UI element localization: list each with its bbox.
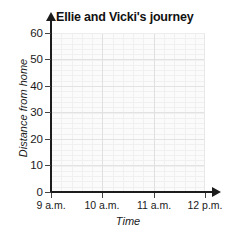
y-tick-label-60: 60	[3, 27, 43, 39]
grid-minor-lines	[51, 33, 205, 192]
x-tick-label-9am: 9 a.m.	[23, 199, 79, 211]
plot-area	[51, 33, 205, 192]
y-axis-tick	[45, 165, 51, 166]
x-tick-label-10am: 10 a.m.	[74, 199, 130, 211]
y-axis-line	[50, 20, 52, 193]
x-axis-line	[51, 191, 214, 193]
x-axis-tick	[205, 193, 206, 198]
y-tick-label-0: 0	[3, 186, 43, 198]
y-axis-tick	[45, 139, 51, 140]
x-axis-arrow-icon	[212, 187, 221, 197]
x-axis-title: Time	[51, 215, 205, 227]
chart-title: Ellie and Vicki's journey	[56, 10, 216, 24]
y-axis-tick	[45, 86, 51, 87]
y-axis-tick	[45, 59, 51, 60]
x-tick-label-11am: 11 a.m.	[126, 199, 182, 211]
x-axis-tick	[102, 193, 103, 198]
y-axis-arrow-icon	[46, 12, 56, 21]
y-axis-tick	[45, 33, 51, 34]
chart-container: Ellie and Vicki's journey 60 50 40 30 20…	[0, 0, 232, 244]
grid-major-lines	[51, 33, 205, 192]
x-tick-label-12pm: 12 p.m.	[177, 199, 232, 211]
x-axis-tick	[154, 193, 155, 198]
y-axis-title: Distance from home	[17, 43, 29, 173]
y-axis-tick	[45, 112, 51, 113]
x-axis-tick	[51, 193, 52, 198]
grid-border	[51, 33, 205, 192]
